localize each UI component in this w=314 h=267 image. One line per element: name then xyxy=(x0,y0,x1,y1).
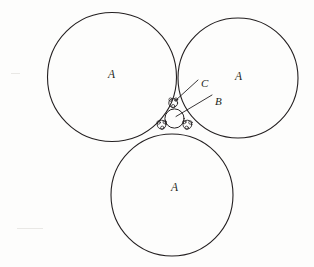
circles-layer xyxy=(48,13,299,257)
circle-label-a-top-left: A xyxy=(108,69,115,81)
circle-C-left xyxy=(157,120,166,129)
circle-label-c: C xyxy=(201,78,209,89)
circle-label-a-bottom: A xyxy=(171,182,178,194)
geometry-svg xyxy=(0,0,314,267)
circle-C-right xyxy=(183,120,192,129)
circle-B-inner xyxy=(165,109,184,128)
circle-label-b: B xyxy=(215,96,222,107)
figure-canvas: A A A C B xyxy=(0,0,314,267)
circle-label-a-top-right: A xyxy=(235,71,242,83)
circle-A-bottom xyxy=(111,134,233,256)
